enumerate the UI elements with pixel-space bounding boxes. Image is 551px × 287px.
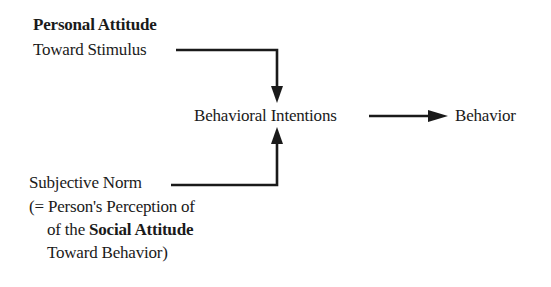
down-arrow-icon bbox=[271, 86, 283, 103]
connector-arrows bbox=[0, 0, 551, 287]
right-arrow-icon bbox=[428, 110, 448, 122]
norm-to-intentions-connector bbox=[171, 140, 277, 185]
attitude-to-intentions-connector bbox=[176, 50, 277, 90]
up-arrow-icon bbox=[271, 127, 283, 144]
